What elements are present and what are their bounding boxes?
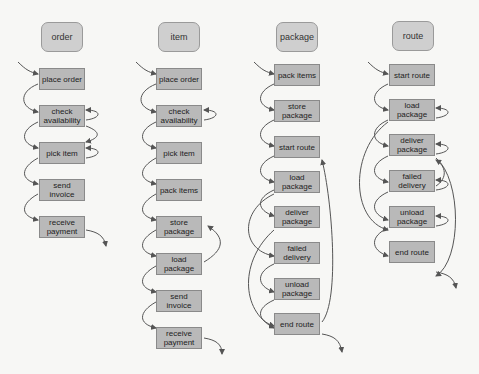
step-send-invoice: send invoice — [39, 179, 85, 201]
step-label: pick item — [163, 149, 195, 158]
step-label: place order — [159, 75, 199, 84]
step-check-availability: check availability — [39, 105, 85, 127]
step-receive-payment: receive payment — [39, 216, 85, 238]
step-label: pack items — [278, 71, 316, 80]
entity-package: package — [276, 22, 318, 52]
step-label: load package — [390, 101, 434, 119]
step-label: start route — [279, 143, 315, 152]
step-pack-items: pack items — [274, 64, 320, 86]
entity-title: route — [403, 31, 424, 41]
step-deliver-package: deliver package — [389, 134, 435, 156]
entity-route: route — [392, 21, 434, 51]
step-load-package: load package — [274, 171, 320, 193]
step-load-package: load package — [156, 253, 202, 275]
step-label: store package — [275, 102, 319, 120]
step-label: load package — [157, 255, 201, 273]
step-label: check availability — [157, 107, 201, 125]
step-label: receive payment — [40, 218, 84, 236]
step-label: place order — [42, 75, 82, 84]
step-label: end route — [280, 320, 314, 329]
step-label: start route — [394, 71, 430, 80]
step-pick-item: pick item — [156, 142, 202, 164]
lifecycle-diagram: order place order check availability pic… — [0, 0, 479, 374]
step-label: send invoice — [40, 181, 84, 199]
entity-order: order — [41, 22, 83, 52]
step-label: failed delivery — [275, 244, 319, 262]
entity-title: package — [280, 32, 314, 42]
step-send-invoice: send invoice — [156, 290, 202, 312]
step-start-route: start route — [274, 136, 320, 158]
step-label: end route — [395, 248, 429, 257]
step-label: unload package — [275, 280, 319, 298]
step-label: store package — [157, 218, 201, 236]
entity-title: item — [170, 32, 187, 42]
step-place-order: place order — [156, 68, 202, 90]
step-label: pack items — [160, 186, 198, 195]
step-load-package: load package — [389, 99, 435, 121]
step-end-route: end route — [274, 313, 320, 335]
step-store-package: store package — [274, 100, 320, 122]
step-deliver-package: deliver package — [274, 206, 320, 228]
step-pick-item: pick item — [39, 142, 85, 164]
step-failed-delivery: failed delivery — [389, 170, 435, 192]
step-label: unload package — [390, 208, 434, 226]
step-check-availability: check availability — [156, 105, 202, 127]
step-label: check availability — [40, 107, 84, 125]
entity-title: order — [51, 32, 72, 42]
step-label: load package — [275, 173, 319, 191]
step-label: deliver package — [275, 208, 319, 226]
step-label: pick item — [46, 149, 78, 158]
step-label: failed delivery — [390, 172, 434, 190]
step-receive-payment: receive payment — [156, 327, 202, 349]
step-place-order: place order — [39, 68, 85, 90]
step-unload-package: unload package — [274, 278, 320, 300]
step-label: deliver package — [390, 136, 434, 154]
step-label: send invoice — [157, 292, 201, 310]
entity-item: item — [158, 22, 200, 52]
step-label: receive payment — [157, 329, 201, 347]
step-store-package: store package — [156, 216, 202, 238]
step-unload-package: unload package — [389, 206, 435, 228]
step-failed-delivery: failed delivery — [274, 242, 320, 264]
step-pack-items: pack items — [156, 179, 202, 201]
step-start-route: start route — [389, 64, 435, 86]
step-end-route: end route — [389, 241, 435, 263]
